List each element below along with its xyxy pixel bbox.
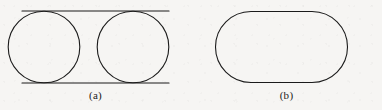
panel-b-drawing	[216, 12, 348, 83]
panel-b-caption: (b)	[191, 89, 382, 101]
panel-a-left-circle	[8, 11, 80, 83]
panel-a-drawing	[8, 11, 169, 83]
panel-a-caption: (a)	[0, 89, 191, 101]
figure-sheet: (a) (b)	[0, 0, 382, 110]
panel-a-right-circle	[97, 11, 169, 83]
panel-b-stadium-shape	[216, 12, 348, 83]
